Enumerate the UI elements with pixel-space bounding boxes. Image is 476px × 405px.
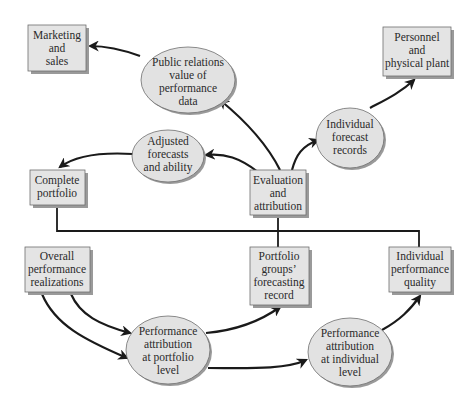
box-individual-quality: Individualperformancequality bbox=[389, 247, 454, 295]
box-overall: Overallperformancerealizations bbox=[25, 247, 93, 295]
svg-text:Individualforecastrecords: Individualforecastrecords bbox=[326, 118, 373, 156]
edge-attrind-to-quality bbox=[382, 296, 420, 330]
ellipse-individual-forecast: Individualforecastrecords bbox=[316, 108, 386, 170]
edge-overall-to-attrport-2 bbox=[42, 294, 127, 358]
ellipse-adjusted: Adjustedforecastsand ability bbox=[132, 130, 206, 184]
box-evaluation: Evaluationandattribution bbox=[250, 170, 309, 218]
edge-pr-to-marketing bbox=[90, 46, 140, 56]
tree-connector bbox=[57, 205, 419, 247]
diagram-canvas: Marketingandsales Personnelandphysical p… bbox=[0, 0, 476, 405]
edge-attrport-to-attrind bbox=[208, 360, 306, 368]
box-complete-portfolio: Completeportfolio bbox=[30, 170, 88, 208]
svg-text:Adjustedforecastsand ability: Adjustedforecastsand ability bbox=[144, 135, 193, 174]
edge-eval-to-pr bbox=[220, 100, 280, 170]
edge-eval-to-indforecast bbox=[292, 140, 318, 170]
edge-attrport-to-groups bbox=[206, 307, 280, 333]
svg-text:Completeportfolio: Completeportfolio bbox=[35, 174, 80, 200]
ellipse-attr-individual: Performanceattributionat individuallevel bbox=[308, 318, 394, 388]
box-personnel: Personnelandphysical plant bbox=[383, 27, 454, 79]
edge-indforecast-to-personnel bbox=[370, 80, 414, 108]
ellipse-public-relations: Public relationsvalue ofperformancedata bbox=[141, 47, 237, 115]
edge-eval-to-adjusted bbox=[206, 155, 258, 172]
edge-adjusted-to-complete bbox=[60, 154, 133, 167]
box-marketing: Marketingandsales bbox=[28, 25, 89, 74]
ellipse-attr-portfolio: Performanceattributionat portfoliolevel bbox=[126, 316, 212, 386]
box-portfolio-groups: Portfoliogroups’forecastingrecord bbox=[250, 247, 312, 308]
edge-overall-to-attrport-1 bbox=[71, 294, 130, 333]
